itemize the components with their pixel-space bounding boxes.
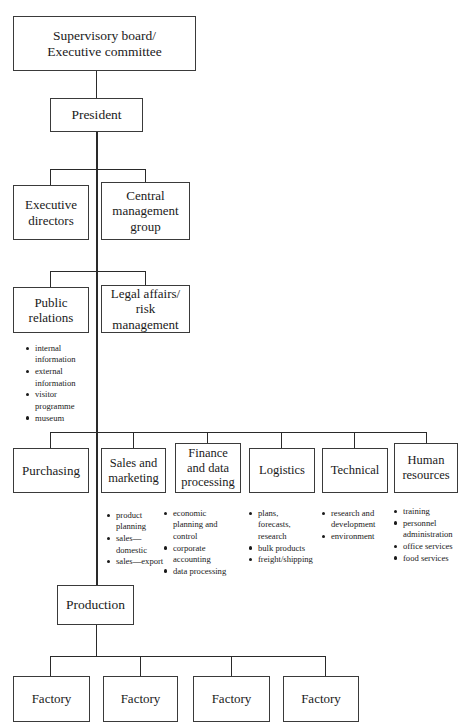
node-factory-2[interactable]: Factory (103, 676, 178, 722)
connector-main-spine (96, 132, 98, 585)
node-sales-and-marketing[interactable]: Sales and marketing (101, 448, 166, 493)
bullets-sales-and-marketing: product planningsales—domesticsales—expo… (107, 510, 165, 568)
bullet-item: museum (26, 413, 88, 424)
bullets-public-relations: internal informationexternal information… (26, 343, 88, 424)
node-factory-1[interactable]: Factory (13, 676, 90, 722)
connector-to-technical (354, 432, 355, 448)
bullet-item: data processing (164, 566, 230, 577)
bullets-logistics: plans, forecasts, researchbulk productsf… (249, 508, 307, 566)
connector-to-factory-3 (231, 656, 232, 676)
bullet-item: freight/shipping (249, 554, 307, 565)
connector-to-legal-affairs (145, 271, 146, 285)
node-president[interactable]: President (50, 98, 143, 132)
connector-production-down (96, 625, 97, 656)
bullet-item: training (394, 506, 464, 517)
node-label: President (68, 107, 124, 123)
bullet-item: food services (394, 553, 464, 564)
node-label: Public relations (26, 295, 77, 326)
bullet-item: bulk products (249, 543, 307, 554)
node-executive-directors[interactable]: Executive directors (13, 185, 89, 240)
connector-to-finance (207, 432, 208, 443)
connector-to-public-relations (50, 271, 51, 287)
node-factory-4[interactable]: Factory (283, 676, 359, 722)
node-label: Purchasing (19, 463, 83, 478)
node-factory-3[interactable]: Factory (193, 676, 270, 722)
node-label: Human resources (399, 453, 452, 483)
bullet-item: external information (26, 366, 88, 389)
node-human-resources[interactable]: Human resources (394, 443, 458, 493)
bullet-item: visitor programme (26, 389, 88, 412)
connector-to-purchasing (50, 432, 51, 448)
node-label: Executive directors (22, 197, 80, 228)
bullet-item: research and development (322, 508, 390, 531)
bullet-item: corporate accounting (164, 543, 230, 566)
node-production[interactable]: Production (57, 585, 134, 625)
connector-level2-horizontal (50, 169, 146, 170)
connector-to-factory-2 (140, 656, 141, 676)
connector-to-sales-marketing (133, 432, 134, 448)
connector-level3-horizontal (50, 271, 146, 272)
node-label: Supervisory board/ Executive committee (44, 28, 164, 60)
node-label: Finance and data processing (178, 446, 237, 490)
node-finance-and-data-processing[interactable]: Finance and data processing (175, 443, 241, 493)
node-legal-affairs-risk-management[interactable]: Legal affairs/ risk management (101, 285, 190, 333)
node-label: Central management group (109, 188, 181, 234)
node-label: Legal affairs/ risk management (108, 286, 183, 332)
bullet-item: personnel administration (394, 518, 464, 541)
bullet-item: internal information (26, 343, 88, 366)
node-public-relations[interactable]: Public relations (13, 287, 89, 333)
node-purchasing[interactable]: Purchasing (13, 448, 89, 493)
node-label: Factory (298, 691, 344, 706)
node-label: Factory (29, 691, 75, 706)
connector-to-executive-directors (50, 169, 51, 185)
node-logistics[interactable]: Logistics (249, 448, 315, 493)
bullet-item: plans, forecasts, research (249, 508, 307, 542)
bullet-item: economic planning and control (164, 508, 230, 542)
org-chart: Supervisory board/ Executive committee P… (0, 0, 466, 725)
connector-factories-horizontal (50, 656, 326, 657)
connector-board-to-president (96, 71, 97, 98)
bullets-technical: research and developmentenvironment (322, 508, 390, 543)
node-label: Logistics (256, 463, 308, 478)
node-label: Sales and marketing (105, 456, 162, 486)
bullet-item: environment (322, 531, 390, 542)
connector-to-factory-1 (50, 656, 51, 676)
bullets-finance-and-data-processing: economic planning and controlcorporate a… (164, 508, 230, 578)
connector-to-logistics (281, 432, 282, 448)
connector-departments-horizontal (50, 432, 426, 433)
node-label: Factory (209, 691, 255, 706)
bullet-item: product planning (107, 510, 165, 533)
connector-to-human-resources (426, 432, 427, 443)
node-technical[interactable]: Technical (322, 448, 388, 493)
bullet-item: sales—domestic (107, 533, 165, 556)
bullet-item: office services (394, 541, 464, 552)
node-label: Technical (328, 463, 382, 478)
node-central-management-group[interactable]: Central management group (101, 182, 190, 240)
bullet-item: sales—export (107, 556, 165, 567)
bullets-human-resources: trainingpersonnel administrationoffice s… (394, 506, 464, 565)
connector-to-central-management-group (145, 169, 146, 182)
node-supervisory-board[interactable]: Supervisory board/ Executive committee (13, 16, 196, 71)
connector-to-factory-4 (325, 656, 326, 676)
node-label: Production (63, 597, 128, 613)
node-label: Factory (118, 691, 164, 706)
